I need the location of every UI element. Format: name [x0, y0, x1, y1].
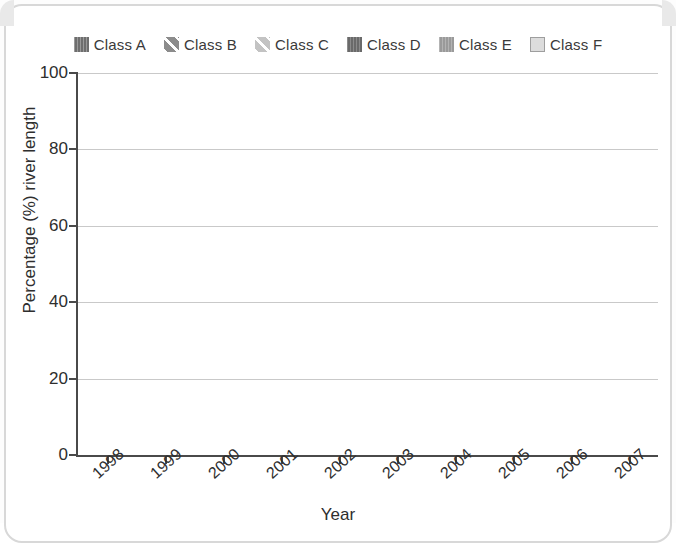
bar-segment-1998-classd	[93, 73, 121, 96]
y-axis-tick	[69, 72, 78, 74]
bar-segment-2003-classd	[383, 73, 411, 126]
bar-segment-2004-classb	[441, 260, 469, 405]
y-axis-tick	[69, 454, 78, 456]
bar-segment-2005-classd	[499, 73, 527, 128]
bar-segment-2002-classc	[325, 127, 353, 238]
bar-2005	[499, 73, 527, 455]
bar-segment-1998-classa	[93, 344, 121, 455]
bar-2004	[441, 73, 469, 455]
bar-segment-2006-classb	[557, 253, 585, 394]
bar-segment-1998-classb	[93, 176, 121, 344]
y-axis-tick	[69, 225, 78, 227]
bar-2006	[557, 73, 585, 455]
y-axis-tick	[69, 148, 78, 150]
y-axis-tick-label: 80	[22, 139, 68, 159]
bar-segment-2001-classd	[267, 73, 295, 138]
bar-2000	[209, 73, 237, 455]
bar-segment-2000-classb	[209, 222, 237, 363]
y-axis-tick-labels: 020406080100	[16, 73, 68, 455]
bar-segment-2006-classd	[557, 73, 585, 123]
plot-area	[76, 73, 658, 457]
y-axis-tick-label: 0	[22, 445, 68, 465]
bar-segment-1998-classc	[93, 96, 121, 176]
y-axis-tick-label: 40	[22, 292, 68, 312]
bar-segment-2004-classd	[441, 73, 469, 134]
x-axis-title: Year	[0, 505, 676, 525]
bar-segment-1999-classd	[151, 73, 179, 134]
bar-1998	[93, 73, 121, 455]
bar-segment-2000-classc	[209, 140, 237, 222]
bar-segment-1999-classb	[151, 218, 179, 371]
bar-segment-2002-classd	[325, 73, 353, 126]
y-axis-tick-label: 100	[22, 63, 68, 83]
bar-segment-2004-classc	[441, 134, 469, 260]
bar-segment-2002-classb	[325, 237, 353, 375]
bar-segment-2007-classa	[615, 381, 643, 455]
bar-segment-2001-classb	[267, 237, 295, 378]
bar-2001	[267, 73, 295, 455]
y-axis-tick	[69, 301, 78, 303]
bar-segment-2001-classa	[267, 379, 295, 455]
bar-segment-2007-classc	[615, 123, 643, 232]
bar-segment-2000-classd	[209, 73, 237, 140]
bar-segment-2002-classa	[325, 375, 353, 455]
bar-2002	[325, 73, 353, 455]
y-axis-tick-label: 20	[22, 369, 68, 389]
bar-segment-2006-classc	[557, 123, 585, 253]
bar-segment-2005-classc	[499, 128, 527, 243]
bar-segment-1999-classc	[151, 134, 179, 218]
bar-segment-2005-classb	[499, 243, 527, 400]
bar-2007	[615, 73, 643, 455]
bar-segment-1999-classa	[151, 371, 179, 455]
bar-1999	[151, 73, 179, 455]
bar-segment-2001-classc	[267, 138, 295, 237]
bar-2003	[383, 73, 411, 455]
bar-segment-2007-classb	[615, 232, 643, 381]
bar-segment-2003-classb	[383, 237, 411, 397]
bar-segment-2000-classa	[209, 363, 237, 455]
bar-segment-2007-classd	[615, 73, 643, 123]
bar-segment-2003-classc	[383, 127, 411, 238]
y-axis-tick-label: 60	[22, 216, 68, 236]
y-axis-tick	[69, 378, 78, 380]
